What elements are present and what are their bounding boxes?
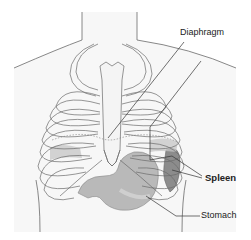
label-diaphragm: Diaphragm [180,28,224,37]
label-spleen: Spleen [205,173,236,183]
label-stomach: Stomach [201,211,237,220]
